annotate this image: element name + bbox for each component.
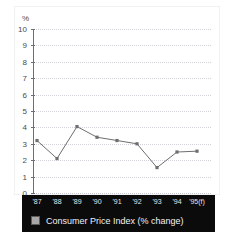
y-axis-unit-label: % xyxy=(22,14,29,23)
y-tick-label-1: 1 xyxy=(23,174,27,182)
series-line-cpi xyxy=(33,29,211,193)
x-tick-label-91: '91 xyxy=(112,198,121,206)
x-tick-label-87: '87 xyxy=(32,198,41,206)
data-point-89 xyxy=(75,125,78,128)
series-polyline xyxy=(37,127,197,168)
x-tick-label-89: '89 xyxy=(72,198,81,206)
x-axis-labels: '87'88'89'90'91'92'93'94'95(f) xyxy=(22,195,215,208)
x-tick-label-90: '90 xyxy=(92,198,101,206)
data-point-88 xyxy=(55,157,58,160)
bottom-panel: '87'88'89'90'91'92'93'94'95(f) Consumer … xyxy=(22,195,215,232)
data-point-92 xyxy=(135,142,138,145)
x-tick-label-92: '92 xyxy=(132,198,141,206)
y-tick-2: 2 xyxy=(31,160,35,161)
y-tick-7: 7 xyxy=(31,78,35,79)
y-tick-4: 4 xyxy=(31,127,35,128)
x-tick-label-88: '88 xyxy=(52,198,61,206)
gridline-0 xyxy=(33,193,211,194)
y-tick-9: 9 xyxy=(31,45,35,46)
y-tick-5: 5 xyxy=(31,111,35,112)
cpi-line-chart: % 109876543210 '87'88'89'90'91'92'93'94'… xyxy=(0,0,228,243)
y-tick-6: 6 xyxy=(31,95,35,96)
y-tick-label-8: 8 xyxy=(23,59,27,67)
y-tick-8: 8 xyxy=(31,62,35,63)
legend: Consumer Price Index (% change) xyxy=(22,209,215,232)
y-tick-label-9: 9 xyxy=(23,42,27,50)
data-point-87 xyxy=(35,139,38,142)
y-tick-label-10: 10 xyxy=(18,26,27,34)
y-tick-label-3: 3 xyxy=(23,141,27,149)
y-tick-label-2: 2 xyxy=(23,157,27,165)
y-tick-10: 10 xyxy=(31,29,35,30)
data-point-95f xyxy=(195,150,198,153)
plot-area xyxy=(33,29,211,193)
legend-label: Consumer Price Index (% change) xyxy=(46,216,184,226)
y-tick-label-6: 6 xyxy=(23,92,27,100)
x-tick-label-95f: '95(f) xyxy=(189,198,205,206)
y-axis: 109876543210 xyxy=(33,29,34,194)
data-point-90 xyxy=(95,136,98,139)
y-tick-1: 1 xyxy=(31,177,35,178)
data-point-94 xyxy=(175,150,178,153)
data-point-91 xyxy=(115,139,118,142)
x-tick-label-94: '94 xyxy=(172,198,181,206)
y-tick-3: 3 xyxy=(31,144,35,145)
y-tick-label-7: 7 xyxy=(23,75,27,83)
y-tick-label-5: 5 xyxy=(23,108,27,116)
y-tick-label-4: 4 xyxy=(23,124,27,132)
data-point-93 xyxy=(155,166,158,169)
y-tick-0: 0 xyxy=(31,193,35,194)
x-tick-label-93: '93 xyxy=(152,198,161,206)
legend-swatch-icon xyxy=(31,216,40,225)
